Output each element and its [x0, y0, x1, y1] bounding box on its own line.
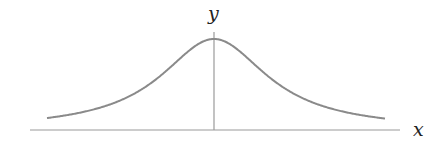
y-axis-label: y	[207, 2, 219, 24]
curve-line	[47, 39, 385, 119]
chart-canvas: y x	[0, 0, 442, 153]
x-axis-label: x	[413, 118, 424, 140]
